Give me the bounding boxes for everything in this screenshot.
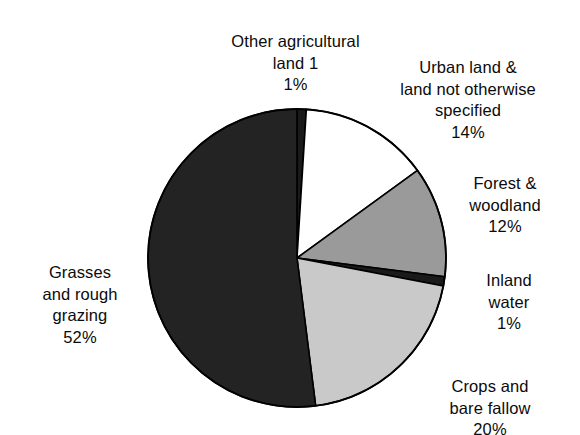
pie-label-text: Crops and bare fallow	[450, 377, 531, 416]
pie-label-urban-land: Urban land & land not otherwise specifie…	[362, 36, 574, 165]
pie-label-value: 1%	[445, 313, 573, 334]
pie-label-text: Urban land & land not otherwise specifie…	[400, 58, 536, 119]
pie-label-forest-woodland: Forest & woodland 12%	[432, 152, 578, 259]
pie-label-grasses-rough-grazing: Grasses and rough grazing 52%	[4, 241, 156, 370]
pie-label-value: 12%	[432, 216, 578, 237]
pie-label-crops-bare-fallow: Crops and bare fallow 20%	[404, 355, 576, 435]
pie-label-value: 52%	[4, 327, 156, 348]
pie-label-value: 14%	[362, 122, 574, 143]
pie-label-text: Grasses and rough grazing	[42, 263, 117, 324]
pie-label-value: 20%	[404, 419, 576, 435]
pie-label-text: Inland water	[486, 271, 532, 310]
pie-chart: Other agricultural land 1 1% Urban land …	[0, 0, 580, 435]
pie-label-inland-water: Inland water 1%	[445, 249, 573, 356]
pie-slice-grasses-rough-grazing	[148, 109, 316, 407]
pie-label-text: Other agricultural land 1	[231, 32, 359, 71]
pie-label-text: Forest & woodland	[469, 174, 540, 213]
